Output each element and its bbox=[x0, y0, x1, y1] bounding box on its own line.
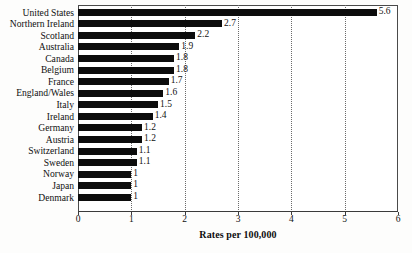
bar-value-label: 1.2 bbox=[144, 133, 156, 145]
category-label: Australia bbox=[0, 41, 74, 53]
category-label: Northern Ireland bbox=[0, 18, 74, 30]
x-axis-tick-label: 1 bbox=[129, 214, 134, 224]
bar-value-label: 1.5 bbox=[160, 99, 172, 111]
bar-row: 1.8 bbox=[78, 64, 398, 76]
bar-row: 1.6 bbox=[78, 87, 398, 99]
bar-value-label: 1.8 bbox=[176, 64, 188, 76]
bar-value-label: 2.7 bbox=[224, 18, 236, 30]
bar bbox=[78, 20, 222, 27]
bar-row: 1.9 bbox=[78, 41, 398, 53]
bar bbox=[78, 159, 137, 166]
bar-row: 1.5 bbox=[78, 99, 398, 111]
bar-row: 1 bbox=[78, 192, 398, 204]
category-axis-labels: United StatesNorthern IrelandScotlandAus… bbox=[0, 5, 74, 212]
bar bbox=[78, 124, 142, 131]
category-label: France bbox=[0, 76, 74, 88]
x-axis-tick-label: 4 bbox=[289, 214, 294, 224]
bar bbox=[78, 9, 377, 16]
bar-row: 1 bbox=[78, 180, 398, 192]
bar-row: 2.7 bbox=[78, 18, 398, 30]
x-axis-tick-label: 2 bbox=[182, 214, 187, 224]
bar-row: 5.6 bbox=[78, 7, 398, 19]
bar bbox=[78, 67, 174, 74]
bar bbox=[78, 182, 131, 189]
x-axis-tick-label: 6 bbox=[396, 214, 401, 224]
category-label: Austria bbox=[0, 134, 74, 146]
category-label: Denmark bbox=[0, 192, 74, 204]
category-label: Canada bbox=[0, 53, 74, 65]
x-axis-tick-label: 3 bbox=[236, 214, 241, 224]
category-label: Switzerland bbox=[0, 145, 74, 157]
bar bbox=[78, 113, 153, 120]
bar-rows: 5.62.72.21.91.81.81.71.61.51.41.21.21.11… bbox=[78, 5, 398, 212]
category-label: Scotland bbox=[0, 30, 74, 42]
bar-value-label: 2.2 bbox=[197, 29, 209, 41]
bar-value-label: 1 bbox=[133, 179, 138, 191]
category-label: Germany bbox=[0, 122, 74, 134]
bar-value-label: 5.6 bbox=[379, 6, 391, 18]
bar bbox=[78, 32, 195, 39]
bar-value-label: 1.7 bbox=[171, 75, 183, 87]
bar bbox=[78, 78, 169, 85]
bar-row: 1.1 bbox=[78, 157, 398, 169]
bar bbox=[78, 194, 131, 201]
category-label: Sweden bbox=[0, 157, 74, 169]
bar-value-label: 1.6 bbox=[165, 87, 177, 99]
category-label: Norway bbox=[0, 168, 74, 180]
bar bbox=[78, 43, 179, 50]
bar-value-label: 1.1 bbox=[139, 156, 151, 168]
bar-value-label: 1 bbox=[133, 168, 138, 180]
bar-row: 1.7 bbox=[78, 76, 398, 88]
bar bbox=[78, 136, 142, 143]
bar-value-label: 1.1 bbox=[139, 145, 151, 157]
x-axis-tick-label: 0 bbox=[76, 214, 81, 224]
bar-row: 1 bbox=[78, 168, 398, 180]
bar bbox=[78, 101, 158, 108]
bar-value-label: 1 bbox=[133, 191, 138, 203]
bar-row: 1.8 bbox=[78, 53, 398, 65]
bar-row: 1.4 bbox=[78, 111, 398, 123]
bar-row: 1.2 bbox=[78, 134, 398, 146]
category-label: Belgium bbox=[0, 64, 74, 76]
category-label: Ireland bbox=[0, 111, 74, 123]
category-label: England/Wales bbox=[0, 87, 74, 99]
category-label: United States bbox=[0, 7, 74, 19]
bar-value-label: 1.9 bbox=[181, 41, 193, 53]
bar bbox=[78, 171, 131, 178]
category-label: Italy bbox=[0, 99, 74, 111]
bar-value-label: 1.2 bbox=[144, 122, 156, 134]
bar-value-label: 1.8 bbox=[176, 52, 188, 64]
bar-chart: United StatesNorthern IrelandScotlandAus… bbox=[0, 0, 412, 253]
bar-value-label: 1.4 bbox=[155, 110, 167, 122]
x-axis-title: Rates per 100,000 bbox=[78, 229, 398, 240]
bar-row: 1.2 bbox=[78, 122, 398, 134]
bar bbox=[78, 148, 137, 155]
bar-row: 2.2 bbox=[78, 30, 398, 42]
x-axis-tick-label: 5 bbox=[342, 214, 347, 224]
category-label: Japan bbox=[0, 180, 74, 192]
bar bbox=[78, 90, 163, 97]
bar-row: 1.1 bbox=[78, 145, 398, 157]
bar bbox=[78, 55, 174, 62]
